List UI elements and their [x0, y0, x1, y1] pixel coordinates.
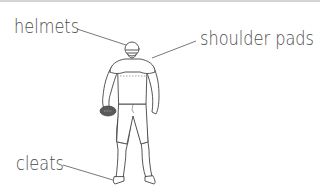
right-cleat	[145, 176, 155, 184]
shoulder-pads	[110, 59, 155, 74]
pants	[117, 104, 148, 144]
leader-line-shoulder-pads	[152, 41, 196, 58]
football-player-illustration	[0, 0, 320, 191]
left-cleat	[113, 177, 124, 184]
jersey	[118, 68, 147, 104]
leader-line-cleats	[63, 165, 113, 180]
helmet	[125, 42, 139, 56]
leader-line-helmets	[77, 29, 126, 45]
